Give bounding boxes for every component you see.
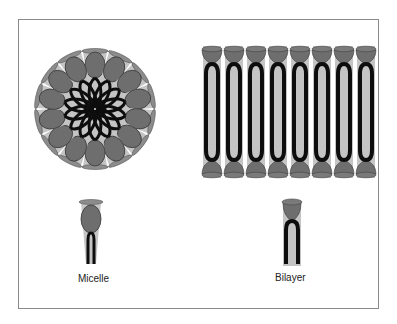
micelle-lipid-icon xyxy=(79,200,103,265)
diagram-canvas xyxy=(0,0,397,324)
micelle-illustration xyxy=(33,49,157,170)
micelle-label: Micelle xyxy=(78,273,109,284)
bilayer-label: Bilayer xyxy=(275,272,306,283)
bilayer-illustration xyxy=(202,46,376,178)
bilayer-lipid-icon xyxy=(282,199,302,266)
